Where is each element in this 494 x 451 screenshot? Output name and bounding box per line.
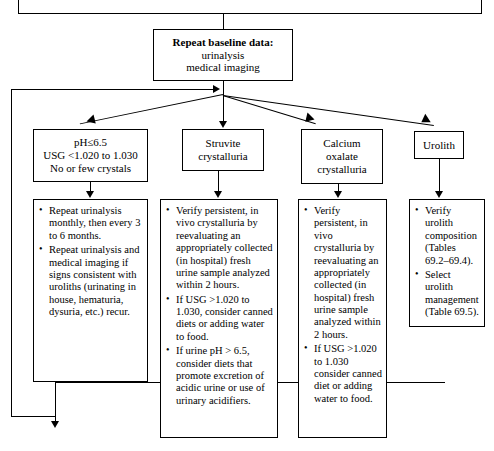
list-item: Repeat urinalysis monthly, then every 3 … (38, 205, 143, 242)
branch-header-line: USG <1.020 to 1.030 (43, 149, 138, 162)
branch-header-struvite: Struvite crystalluria (182, 129, 264, 171)
list-item: If USG >1.020 to 1.030 consider canned d… (303, 343, 382, 405)
connector-top-to-baseline (223, 13, 224, 29)
list-item: If urine pH > 6.5, consider diets that p… (165, 345, 273, 407)
flowchart-canvas: Repeat baseline data: urinalysis medical… (0, 0, 494, 451)
branch-actions-urolith: Verify urolith composition (Tables 69.2–… (409, 199, 485, 327)
repeat-baseline-heading: Repeat baseline data: (173, 36, 274, 49)
connector-baseline-hub-stem (223, 81, 224, 95)
feedback-loop-return-arrowhead (51, 421, 59, 428)
fanout-line-branch-2 (223, 95, 224, 124)
fanout-line-branch-3 (223, 95, 316, 124)
branch-header-line: oxalate (326, 150, 358, 163)
fanout-arrowhead-branch-1 (87, 114, 100, 127)
branch-header-line: Calcium (323, 137, 360, 150)
connector-arrowhead-calcium-oxalate (334, 191, 342, 198)
list-item: Verify persistent, in vivo crystalluria … (303, 205, 382, 341)
branch-actions-ph-usg: Repeat urinalysis monthly, then every 3 … (33, 199, 148, 382)
connector-arrowhead-struvite (214, 191, 222, 198)
branch-actions-struvite: Verify persistent, in vivo crystalluria … (160, 199, 278, 438)
bullet-list: Repeat urinalysis monthly, then every 3 … (38, 205, 143, 318)
feedback-loop-bottom-rail (11, 416, 56, 417)
branch-header-calcium-oxalate: Calcium oxalate crystalluria (301, 129, 383, 184)
list-item: Select urolith management (Table 69.5). (414, 269, 480, 319)
branch-header-line: crystalluria (317, 163, 366, 176)
fanout-arrowhead-branch-2 (219, 121, 227, 128)
branch-header-line: Struvite (206, 137, 241, 150)
branch-header-urolith: Urolith (414, 131, 464, 159)
branch-actions-calcium-oxalate: Verify persistent, in vivo crystalluria … (298, 199, 387, 438)
feedback-loop-top-rail (11, 89, 215, 90)
branch-header-ph-usg: pH≤6.5 USG <1.020 to 1.030 No or few cry… (33, 129, 148, 182)
branch-header-line: No or few crystals (50, 162, 131, 175)
bullet-list: Verify persistent, in vivo crystalluria … (165, 205, 273, 407)
connector-arrowhead-urolith (435, 191, 443, 198)
connector-urolith-to-actions (439, 159, 440, 194)
feedback-loop-left-rail (11, 89, 12, 416)
repeat-baseline-line3: medical imaging (186, 61, 260, 74)
feedback-loop-arrowhead (213, 85, 220, 93)
fanout-line-branch-1 (80, 94, 223, 124)
repeat-baseline-line2: urinalysis (202, 49, 245, 62)
bullet-list: Verify persistent, in vivo crystalluria … (303, 205, 382, 405)
feedback-loop-return-stem (55, 382, 56, 424)
branch-header-line: pH≤6.5 (74, 136, 107, 149)
branch-header-line: crystalluria (198, 150, 247, 163)
list-item: Verify urolith composition (Tables 69.2–… (414, 205, 480, 267)
connector-arrowhead-ph-usg (86, 191, 94, 198)
top-partial-box (18, 0, 482, 14)
list-item: Verify persistent, in vivo crystalluria … (165, 205, 273, 292)
bullet-list: Verify urolith composition (Tables 69.2–… (414, 205, 480, 318)
list-item: Repeat urinalysis and medical imaging if… (38, 244, 143, 318)
repeat-baseline-data-box: Repeat baseline data: urinalysis medical… (153, 29, 293, 81)
fanout-line-branch-4 (223, 95, 434, 126)
list-item: If USG >1.020 to 1.030, consider canned … (165, 294, 273, 344)
branch-header-line: Urolith (423, 139, 455, 152)
